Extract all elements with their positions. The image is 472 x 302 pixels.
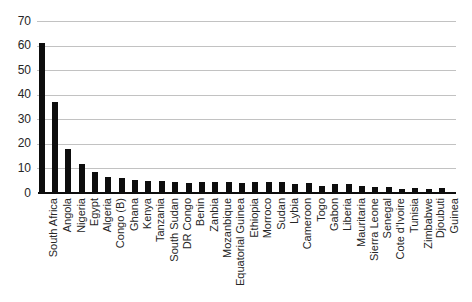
x-axis-category-label: Mauritaria: [355, 198, 367, 247]
x-axis-category-label: Liberia: [341, 198, 353, 231]
x-axis-category-label: Nigeria: [74, 198, 86, 233]
gridline: [37, 21, 456, 22]
x-axis-category-label: Djoubuti: [435, 198, 447, 238]
bar: [52, 102, 58, 193]
x-axis-category-label: Guinea: [448, 198, 460, 233]
x-axis-category-label: Mozanbique: [221, 198, 233, 258]
bar: [105, 177, 111, 193]
x-axis-category-label: Cote d'Ivoire: [395, 198, 407, 259]
x-axis-category-label: Gabon: [328, 198, 340, 231]
gridline: [37, 70, 456, 71]
gridline: [37, 95, 456, 96]
y-axis-tick-label: 30: [0, 113, 31, 126]
x-axis-category-label: Togo: [315, 198, 327, 222]
x-axis-category-label: Tanzania: [154, 198, 166, 242]
x-axis-category-label: Morroco: [261, 198, 273, 238]
x-axis-category-label: Benin: [195, 198, 207, 226]
x-axis-category-label: Senegal: [381, 198, 393, 238]
x-axis-category-label: South Africa: [48, 198, 60, 257]
bar: [92, 172, 98, 193]
bar: [132, 180, 138, 194]
gridline: [37, 168, 456, 169]
y-axis-tick-label: 10: [0, 162, 31, 175]
x-axis-category-label: Ghana: [128, 198, 140, 231]
bar: [65, 149, 71, 193]
x-axis-line: [38, 192, 456, 194]
x-axis-category-label: Zimbabwe: [421, 198, 433, 249]
x-axis-category-label: DR Congo: [181, 198, 193, 249]
y-axis-tick-label: 70: [0, 15, 31, 28]
y-axis-tick-label: 40: [0, 88, 31, 101]
gridline: [37, 119, 456, 120]
y-axis-tick-label: 60: [0, 39, 31, 52]
x-axis-category-label: Algeria: [101, 198, 113, 232]
x-axis-category-label: Congo (B): [114, 198, 126, 248]
x-axis-category-label: Zanbia: [208, 198, 220, 232]
bar: [119, 178, 125, 193]
x-axis-category-label: Equatorial Guinea: [235, 198, 247, 286]
y-axis-tick-label: 50: [0, 64, 31, 77]
x-axis-category-label: Tunisia: [408, 198, 420, 233]
bar: [79, 164, 85, 194]
y-axis-tick-label: 20: [0, 137, 31, 150]
x-axis-category-label: Egypt: [88, 198, 100, 226]
x-axis-category-label: Sierra Leone: [368, 198, 380, 261]
bar-chart: 010203040506070 South AfricaAngolaNigeri…: [0, 0, 472, 302]
x-axis-category-label: Kenya: [141, 198, 153, 229]
x-axis-category-label: Sudan: [275, 198, 287, 230]
gridline: [37, 144, 456, 145]
bar: [39, 43, 45, 193]
y-axis-tick-label: 0: [0, 187, 31, 200]
x-axis-category-label: Lybia: [288, 198, 300, 224]
gridline: [37, 46, 456, 47]
x-axis-category-label: Ethiopia: [248, 198, 260, 238]
x-axis-category-label: South Sudan: [168, 198, 180, 262]
x-axis-category-label: Cameroon: [301, 198, 313, 249]
x-axis-category-label: Angola: [61, 198, 73, 232]
